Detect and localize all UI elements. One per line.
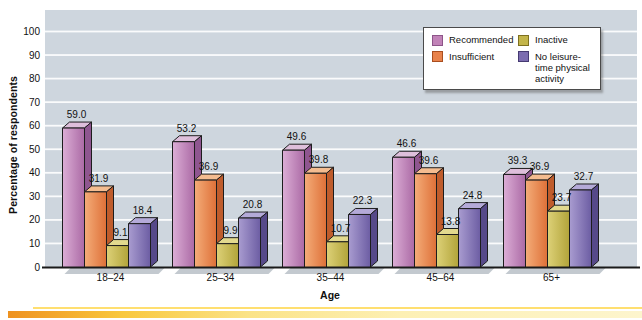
y-tick-label: 10	[29, 238, 41, 249]
bar	[195, 180, 217, 267]
value-label: 46.6	[397, 138, 417, 149]
y-tick-label: 70	[29, 97, 41, 108]
bar	[349, 214, 371, 267]
value-label: 36.9	[199, 161, 219, 172]
bar	[415, 174, 437, 267]
legend-swatch	[518, 51, 529, 62]
value-label: 9.9	[224, 225, 238, 236]
bar	[305, 173, 327, 267]
legend-item: Recommended	[432, 34, 518, 46]
chart-legend: RecommendedInsufficientInactiveNo leisur…	[423, 27, 601, 90]
gridline	[45, 148, 637, 150]
legend-item: Insufficient	[432, 51, 518, 84]
value-label: 18.4	[133, 205, 153, 216]
y-tick-label: 40	[29, 167, 41, 178]
y-tick-label: 60	[29, 120, 41, 131]
bottom-accent-bar	[8, 311, 642, 318]
value-label: 36.9	[530, 161, 550, 172]
bar-side-face	[371, 208, 378, 267]
y-axis-title: Percentage of respondents	[7, 65, 21, 225]
legend-swatch	[432, 35, 443, 46]
y-tick-label: 30	[29, 191, 41, 202]
legend-swatch	[518, 35, 529, 46]
bottom-accent-line	[33, 307, 642, 309]
legend-label: Recommended	[449, 34, 513, 45]
value-label: 24.8	[463, 190, 483, 201]
bar	[217, 244, 239, 267]
bar	[504, 174, 526, 267]
bar	[283, 150, 305, 267]
value-label: 13.8	[441, 216, 461, 227]
gridline	[45, 172, 637, 174]
bar	[548, 211, 570, 267]
value-label: 39.6	[419, 155, 439, 166]
value-label: 39.3	[508, 155, 528, 166]
value-label: 49.6	[287, 131, 307, 142]
legend-label: Inactive	[535, 34, 568, 45]
bar	[85, 192, 107, 267]
value-label: 59.0	[67, 109, 87, 120]
bar	[437, 235, 459, 267]
x-category-label: 65+	[543, 272, 560, 283]
bar	[107, 246, 129, 267]
value-label: 10.7	[331, 223, 351, 234]
bar	[393, 157, 415, 267]
value-label: 32.7	[574, 171, 594, 182]
y-tick-label: 80	[29, 73, 41, 84]
bar-side-face	[592, 184, 599, 267]
x-category-label: 25–34	[207, 272, 235, 283]
value-label: 22.3	[353, 195, 373, 206]
value-label: 53.2	[177, 123, 197, 134]
bar	[526, 180, 548, 267]
gridline	[45, 125, 637, 127]
legend-label: Insufficient	[449, 51, 494, 62]
y-tick-label: 0	[34, 262, 40, 273]
bar-side-face	[151, 218, 158, 267]
bar	[129, 224, 151, 267]
legend-item: Inactive	[518, 34, 595, 46]
bar	[63, 128, 85, 267]
value-label: 39.8	[309, 154, 329, 165]
bar	[173, 142, 195, 267]
y-tick-label: 50	[29, 144, 41, 155]
bar	[239, 218, 261, 267]
bar	[327, 242, 349, 267]
y-tick-label: 100	[23, 26, 40, 37]
legend-swatch	[432, 51, 443, 62]
x-category-label: 35–44	[317, 272, 345, 283]
gridline	[45, 101, 637, 103]
y-tick-label: 20	[29, 214, 41, 225]
bar-side-face	[481, 203, 488, 267]
legend-label: No leisure-time physical activity	[535, 51, 595, 84]
bar	[570, 190, 592, 267]
y-tick-label: 90	[29, 50, 41, 61]
value-label: 23.7	[552, 192, 572, 203]
x-category-label: 45–64	[427, 272, 455, 283]
bar	[459, 209, 481, 267]
figure-panel: 59.031.99.118.453.236.99.920.849.639.810…	[0, 0, 642, 320]
value-label: 20.8	[243, 199, 263, 210]
value-label: 9.1	[114, 227, 128, 238]
bar-side-face	[261, 212, 268, 267]
x-category-label: 18–24	[97, 272, 125, 283]
value-label: 31.9	[89, 173, 109, 184]
x-axis-title: Age	[290, 289, 370, 301]
legend-item: No leisure-time physical activity	[518, 51, 595, 84]
